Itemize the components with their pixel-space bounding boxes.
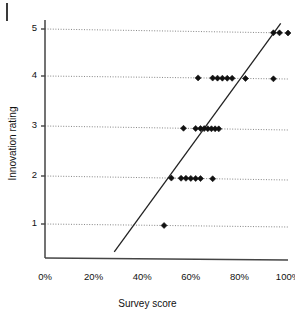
data-point — [198, 176, 204, 182]
data-point — [181, 125, 187, 131]
data-point — [270, 76, 276, 82]
y-axis-tick-label: 3 — [11, 119, 37, 130]
y-axis-tick-label: 1 — [11, 217, 37, 228]
x-axis-tick-label: 60% — [169, 271, 213, 282]
y-axis-tick-label: 2 — [11, 169, 37, 180]
data-point — [242, 75, 248, 81]
x-axis-tick-label: 80% — [217, 271, 261, 282]
data-point — [216, 126, 222, 132]
data-point — [285, 30, 291, 36]
x-axis-tick-label: 40% — [120, 271, 164, 282]
data-point — [195, 75, 201, 81]
x-axis-tick-label: 0% — [23, 271, 67, 282]
y-axis-title: Innovation rating — [7, 74, 18, 214]
data-point — [161, 222, 167, 228]
y-axis-tick-label: 5 — [11, 22, 37, 33]
x-axis-title: Survey score — [0, 298, 295, 309]
data-point — [276, 30, 282, 36]
y-axis-tick-label: 4 — [11, 69, 37, 80]
x-axis-tick-label: 100% — [266, 271, 295, 282]
data-point — [210, 176, 216, 182]
x-axis-tick-label: 20% — [72, 271, 116, 282]
scatter-chart: Innovation rating Survey score 123450%20… — [0, 0, 295, 321]
data-point — [229, 75, 235, 81]
